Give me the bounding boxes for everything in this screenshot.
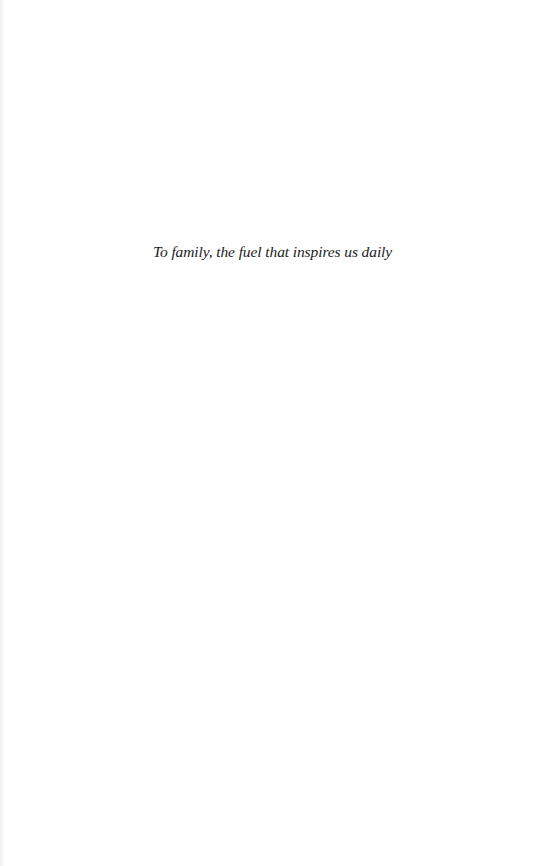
page-binding-edge <box>0 0 5 866</box>
dedication-text: To family, the fuel that inspires us dai… <box>0 242 539 262</box>
book-page: To family, the fuel that inspires us dai… <box>0 0 539 866</box>
